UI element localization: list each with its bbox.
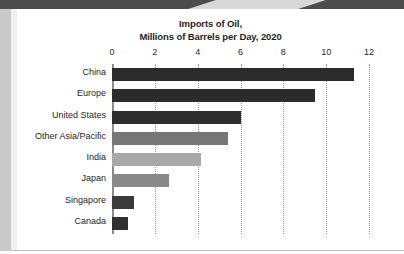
category-label: China xyxy=(82,67,106,77)
x-tick-label: 4 xyxy=(195,47,200,57)
x-tick-label: 12 xyxy=(364,47,374,57)
chart-title-line-1: Imports of Oil, xyxy=(17,17,404,30)
category-label: Canada xyxy=(74,216,106,226)
x-tick-label: 8 xyxy=(281,47,286,57)
category-label: Europe xyxy=(77,88,106,98)
bar-row: Canada xyxy=(112,213,369,234)
bar-row: India xyxy=(112,149,369,170)
bar xyxy=(112,89,315,102)
bar-row: Singapore xyxy=(112,192,369,213)
bar-row: United States xyxy=(112,107,369,128)
category-label: Japan xyxy=(81,173,106,183)
page-left-gutter xyxy=(0,9,11,254)
x-tick-label: 2 xyxy=(152,47,157,57)
bar xyxy=(112,153,201,166)
page: Imports of Oil, Millions of Barrels per … xyxy=(0,0,404,254)
bar xyxy=(112,68,354,81)
bar-row: China xyxy=(112,64,369,85)
bar xyxy=(112,217,128,230)
bar xyxy=(112,132,228,145)
chart-title: Imports of Oil, Millions of Barrels per … xyxy=(17,17,404,43)
bar xyxy=(112,196,134,209)
plot-area: 024681012 ChinaEuropeUnited StatesOther … xyxy=(112,64,369,234)
bar-row: Other Asia/Pacific xyxy=(112,128,369,149)
bar xyxy=(112,111,241,124)
bar-row: Japan xyxy=(112,170,369,191)
bar-row: Europe xyxy=(112,85,369,106)
category-label: Singapore xyxy=(65,195,106,205)
decorative-wedge xyxy=(182,0,332,9)
chart-title-line-2: Millions of Barrels per Day, 2020 xyxy=(17,30,404,43)
bar-chart: Imports of Oil, Millions of Barrels per … xyxy=(17,9,404,251)
category-label: India xyxy=(86,152,106,162)
gridline xyxy=(369,64,370,234)
category-label: United States xyxy=(52,110,106,120)
bar xyxy=(112,174,169,187)
x-tick-label: 10 xyxy=(321,47,331,57)
x-tick-label: 0 xyxy=(109,47,114,57)
page-top-band xyxy=(0,0,404,9)
x-tick-label: 6 xyxy=(238,47,243,57)
category-label: Other Asia/Pacific xyxy=(35,131,106,141)
